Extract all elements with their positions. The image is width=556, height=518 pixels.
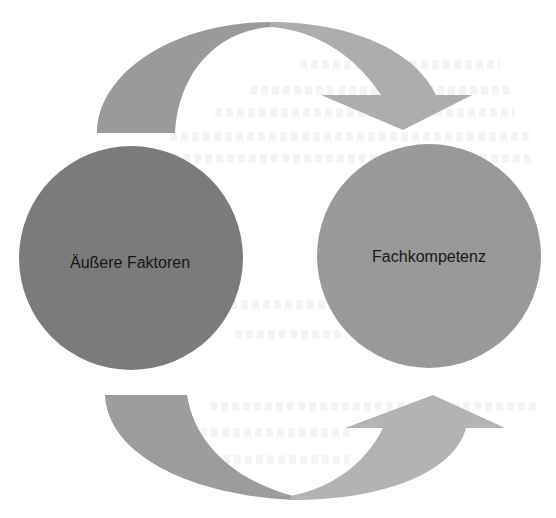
- node-label-fachkompetenz: Fachkompetenz: [372, 247, 486, 267]
- bottom-arrow-right-segment: [291, 395, 505, 500]
- top-arrow-left-segment: [97, 22, 272, 133]
- bottom-arrow-left-segment: [105, 395, 293, 500]
- top-arrow-right-segment: [270, 22, 472, 130]
- node-label-aeussere-faktoren: Äußere Faktoren: [70, 253, 190, 273]
- cycle-diagram: Äußere Faktoren Fachkompetenz: [0, 0, 556, 518]
